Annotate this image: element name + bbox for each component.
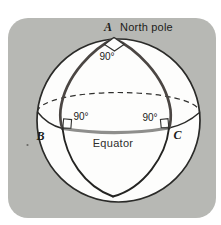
label-equator: Equator <box>93 137 134 148</box>
label-vertex-a: A <box>104 21 112 33</box>
label-angle-c: 90° <box>142 113 157 123</box>
label-vertex-b: B <box>36 130 44 142</box>
label-angle-a: 90° <box>99 52 114 62</box>
label-north-pole: North pole <box>120 22 173 33</box>
print-speck <box>26 144 28 146</box>
label-vertex-c: C <box>173 129 181 141</box>
sphere-diagram <box>0 0 221 225</box>
label-angle-b: 90° <box>73 112 88 122</box>
figure-sphere-triangle: A North pole 90° 90° 90° B C Equator <box>0 0 221 225</box>
